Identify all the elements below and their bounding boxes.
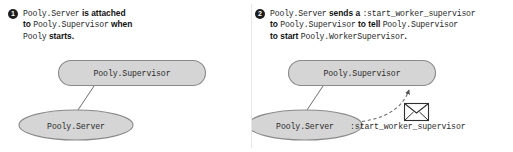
- diagram-panel-2: 2 Pooly.Server sends a :start_worker_sup…: [252, 0, 513, 152]
- envelope-icon: [405, 104, 429, 121]
- diagram-panel-1: 1 Pooly.Server is attached to Pooly.Supe…: [0, 0, 250, 152]
- server-node-label: Pooly.Server: [47, 122, 105, 131]
- panel-1-diagram: Pooly.Supervisor Pooly.Server: [0, 0, 250, 152]
- supervisor-node-label: Pooly.Supervisor: [323, 69, 400, 78]
- message-label: :start_worker_supervisor: [350, 122, 466, 131]
- panel-2-diagram: Pooly.Supervisor Pooly.Server :start_wor…: [252, 0, 513, 152]
- supervisor-node-label: Pooly.Supervisor: [93, 69, 170, 78]
- attachment-link: [76, 86, 94, 113]
- server-node-label: Pooly.Server: [276, 122, 334, 131]
- attachment-link: [305, 86, 323, 113]
